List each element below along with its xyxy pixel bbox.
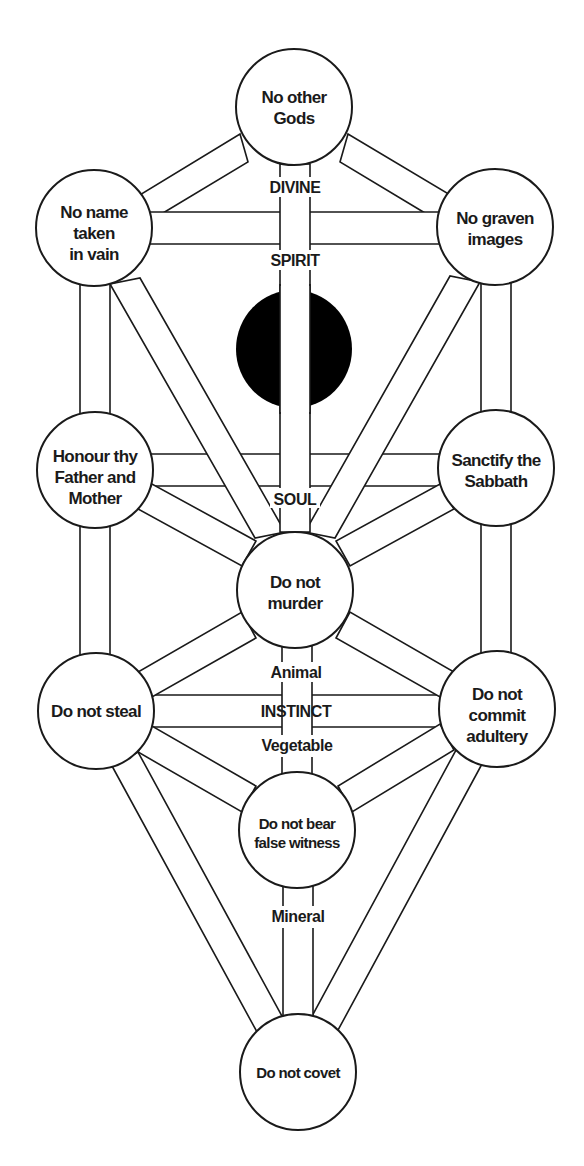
- node-n2-line1: No name: [60, 203, 128, 222]
- node-n8-line3: adultery: [466, 727, 528, 746]
- label-vegetable: Vegetable: [261, 737, 333, 754]
- path-n6-n8: [336, 612, 454, 697]
- node-n4-line2: Father and: [55, 468, 136, 487]
- node-n1-line1: No other: [261, 88, 327, 107]
- label-soul: SOUL: [274, 491, 317, 508]
- node-n1-line2: Gods: [273, 109, 314, 128]
- node-n4-line1: Honour thy: [53, 447, 139, 466]
- path-n2-n4: [80, 282, 110, 416]
- node-n6-line2: murder: [268, 594, 324, 613]
- path-n5-n8: [481, 522, 511, 654]
- node-do-not-bear-false-witness: Do not bear false witness: [239, 772, 355, 888]
- node-n4-line3: Mother: [68, 489, 122, 508]
- node-sanctify-sabbath: Sanctify the Sabbath: [438, 410, 554, 526]
- node-no-graven-images: No graven images: [437, 169, 553, 285]
- node-n8-line1: Do not: [472, 685, 523, 704]
- path-n1-n2: [138, 134, 248, 222]
- node-do-not-covet: Do not covet: [240, 1014, 356, 1130]
- path-n4-n7: [80, 524, 110, 656]
- node-n3-line1: No graven: [456, 209, 534, 228]
- daat-central-band: [280, 286, 310, 412]
- node-do-not-murder: Do not murder: [237, 532, 353, 648]
- label-animal: Animal: [271, 664, 322, 681]
- node-n8-line2: commit: [469, 706, 527, 725]
- path-n6-n7: [138, 612, 256, 697]
- node-honour-father-mother: Honour thy Father and Mother: [37, 412, 153, 528]
- node-n7-line1: Do not steal: [51, 702, 141, 721]
- label-mineral: Mineral: [271, 908, 324, 925]
- node-n9-line1: Do not bear: [259, 815, 336, 832]
- node-do-not-steal: Do not steal: [38, 653, 154, 769]
- node-n5-line2: Sabbath: [465, 472, 528, 491]
- node-no-name-taken-in-vain: No name taken in vain: [36, 170, 152, 286]
- path-n9-n10: [283, 886, 313, 1016]
- node-n6-line1: Do not: [270, 573, 321, 592]
- node-n5-line1: Sanctify the: [451, 451, 540, 470]
- node-do-not-commit-adultery: Do not commit adultery: [439, 651, 555, 767]
- node-no-other-gods: No other Gods: [236, 49, 352, 165]
- path-n1-n3: [340, 134, 452, 222]
- node-n3-line2: images: [468, 230, 523, 249]
- node-n2-line3: in vain: [69, 245, 119, 264]
- path-n3-n5: [481, 282, 511, 414]
- node-n9-line2: false witness: [254, 834, 340, 851]
- node-n10-line1: Do not covet: [256, 1064, 340, 1081]
- node-n2-line2: taken: [73, 224, 115, 243]
- label-spirit: SPIRIT: [270, 252, 320, 269]
- label-instinct: INSTINCT: [261, 703, 332, 720]
- label-divine: DIVINE: [270, 179, 322, 196]
- tree-of-life-diagram: DIVINE SPIRIT SOUL Animal INSTINCT Veget…: [0, 0, 584, 1166]
- daat-layer: [236, 284, 352, 414]
